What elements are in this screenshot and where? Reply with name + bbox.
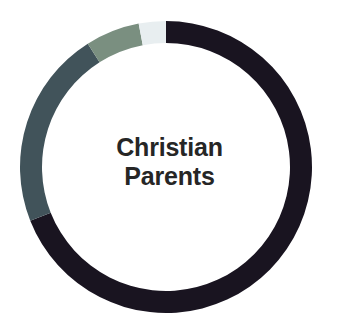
donut-chart-svg — [0, 0, 339, 323]
donut-chart-figure: Christian Parents — [0, 0, 339, 323]
donut-segment-4 — [139, 21, 166, 45]
donut-segment-2 — [20, 44, 100, 221]
donut-segment-3 — [88, 24, 143, 63]
donut-segment-group — [20, 21, 312, 313]
